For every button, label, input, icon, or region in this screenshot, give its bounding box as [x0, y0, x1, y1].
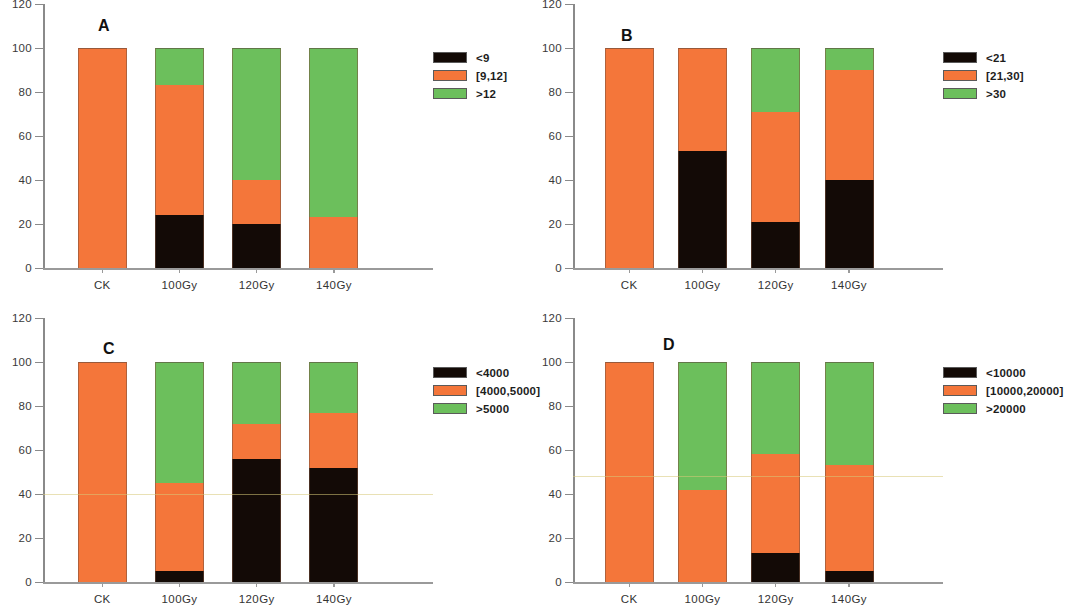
legend-label: [21,30]	[986, 70, 1024, 82]
y-tick	[35, 92, 43, 93]
legend-item[interactable]: [21,30]	[943, 68, 1024, 83]
y-tick	[565, 92, 573, 93]
legend-item[interactable]: <21	[943, 50, 1024, 65]
x-tick-label: 120Gy	[239, 279, 275, 291]
x-tick	[179, 268, 180, 273]
legend-item[interactable]: >20000	[943, 401, 1074, 416]
x-tick	[102, 582, 103, 587]
stacked-bar	[232, 4, 281, 268]
x-tick	[848, 268, 849, 273]
figure-stacked-bar-panels: A020406080100120CK100Gy120Gy140Gy<9[9,12…	[0, 0, 1074, 609]
y-tick-label: 40	[549, 174, 562, 186]
bar-segment	[825, 180, 874, 268]
y-tick	[565, 406, 573, 407]
y-tick-label: 20	[19, 532, 32, 544]
y-tick	[35, 582, 43, 583]
legend-item[interactable]: >12	[433, 86, 507, 101]
bar-segment	[309, 468, 358, 582]
bar-segment	[232, 459, 281, 582]
plot-area-a: 020406080100120CK100Gy120Gy140Gy	[43, 4, 433, 268]
y-axis-line	[573, 318, 575, 582]
x-tick-label: 120Gy	[758, 593, 794, 605]
legend-swatch-icon	[943, 88, 977, 99]
y-tick-label: 0	[25, 576, 32, 588]
legend-item[interactable]: [10000,20000]	[943, 383, 1074, 398]
legend-label: [4000,5000]	[476, 385, 540, 397]
x-tick	[333, 268, 334, 273]
legend-item[interactable]: <4000	[433, 365, 540, 380]
y-tick-label: 120	[542, 0, 562, 10]
y-tick-label: 60	[549, 130, 562, 142]
bar-segment	[232, 48, 281, 180]
bar-segment	[309, 362, 358, 413]
bar-segment	[605, 362, 654, 582]
bar-segment	[678, 362, 727, 490]
bar-segment	[232, 362, 281, 424]
legend-swatch-icon	[943, 70, 977, 81]
stacked-bar	[751, 318, 800, 582]
y-tick-label: 100	[12, 356, 32, 368]
legend-item[interactable]: >5000	[433, 401, 540, 416]
y-axis-line	[573, 4, 575, 268]
y-tick-label: 0	[555, 576, 562, 588]
y-tick	[35, 48, 43, 49]
y-tick-label: 100	[542, 42, 562, 54]
x-tick-label: 140Gy	[831, 593, 867, 605]
bar-segment	[155, 362, 204, 483]
y-tick	[565, 450, 573, 451]
y-tick	[35, 450, 43, 451]
x-tick	[179, 582, 180, 587]
y-tick	[565, 224, 573, 225]
x-tick	[333, 582, 334, 587]
bar-segment	[155, 571, 204, 582]
y-tick	[565, 318, 573, 319]
legend-item[interactable]: <9	[433, 50, 507, 65]
y-tick	[565, 136, 573, 137]
legend-item[interactable]: [4000,5000]	[433, 383, 540, 398]
y-tick	[35, 362, 43, 363]
y-tick-label: 120	[12, 312, 32, 324]
bar-segment	[678, 490, 727, 582]
y-tick-label: 20	[19, 218, 32, 230]
stacked-bar	[605, 4, 654, 268]
bar-segment	[678, 151, 727, 268]
legend-label: <10000	[986, 367, 1026, 379]
bar-segment	[751, 553, 800, 582]
bar-segment	[309, 217, 358, 268]
x-tick	[256, 582, 257, 587]
y-tick	[35, 268, 43, 269]
y-tick-label: 60	[19, 130, 32, 142]
legend-item[interactable]: >30	[943, 86, 1024, 101]
x-tick-label: 100Gy	[162, 593, 198, 605]
y-tick	[565, 268, 573, 269]
legend-label: [10000,20000]	[986, 385, 1063, 397]
panel-a: A020406080100120CK100Gy120Gy140Gy<9[9,12…	[43, 4, 593, 308]
stacked-bar	[825, 318, 874, 582]
legend-label: [9,12]	[476, 70, 507, 82]
legend-d: <10000[10000,20000]>20000	[943, 365, 1074, 419]
bar-segment	[825, 48, 874, 70]
x-tick	[848, 582, 849, 587]
y-tick-label: 20	[549, 532, 562, 544]
legend-item[interactable]: <10000	[943, 365, 1074, 380]
legend-swatch-icon	[433, 385, 467, 396]
y-tick-label: 80	[19, 86, 32, 98]
legend-label: >12	[476, 88, 496, 100]
y-tick-label: 0	[555, 262, 562, 274]
x-tick	[629, 582, 630, 587]
stacked-bar	[309, 318, 358, 582]
bar-segment	[232, 424, 281, 459]
stacked-bar	[232, 318, 281, 582]
stacked-bar	[678, 4, 727, 268]
y-tick-label: 120	[542, 312, 562, 324]
legend-c: <4000[4000,5000]>5000	[433, 365, 540, 419]
legend-item[interactable]: [9,12]	[433, 68, 507, 83]
x-tick-label: 140Gy	[316, 593, 352, 605]
bar-segment	[751, 112, 800, 222]
legend-swatch-icon	[943, 367, 977, 378]
bar-segment	[825, 362, 874, 465]
y-tick	[565, 362, 573, 363]
legend-b: <21[21,30]>30	[943, 50, 1024, 104]
x-tick-label: 140Gy	[316, 279, 352, 291]
stacked-bar	[309, 4, 358, 268]
